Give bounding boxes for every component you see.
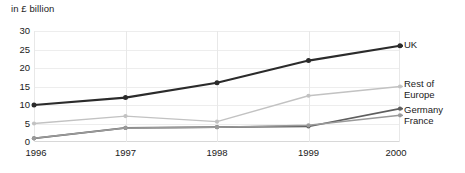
y-tick-label: 5 — [2, 119, 30, 129]
legend: UK Rest of Europe Germany France — [404, 31, 465, 142]
data-point — [215, 80, 220, 85]
data-point — [32, 121, 36, 125]
y-tick-label: 20 — [2, 63, 30, 73]
x-axis-tick-labels: 1996 1997 1998 1999 2000 — [34, 147, 400, 161]
y-axis-tick-labels: 30 25 20 15 10 5 0 — [0, 31, 30, 142]
data-point — [32, 103, 37, 108]
x-tick-label: 1999 — [298, 147, 319, 158]
legend-label-rest-of-europe-line1: Rest of — [404, 79, 434, 90]
y-tick-label: 10 — [2, 100, 30, 110]
legend-label-germany: Germany — [404, 105, 443, 116]
series-line — [34, 46, 400, 105]
y-tick-label: 25 — [2, 45, 30, 55]
x-tick-label: 1997 — [115, 147, 136, 158]
data-point — [215, 125, 219, 129]
y-tick-label: 0 — [2, 137, 30, 147]
plot-area — [34, 31, 400, 142]
series-line — [34, 87, 400, 124]
legend-label-france: France — [404, 116, 434, 127]
line-chart: in £ billion 30 25 20 15 10 5 0 1996 199… — [0, 0, 465, 173]
data-point — [123, 114, 127, 118]
data-point — [123, 126, 127, 130]
data-point — [306, 123, 310, 127]
legend-label-rest-of-europe-line2: Europe — [404, 90, 435, 101]
x-tick-label: 1996 — [25, 147, 46, 158]
data-point — [32, 136, 36, 140]
data-point — [306, 94, 310, 98]
x-tick-label: 2000 — [385, 147, 406, 158]
chart-axis-title: in £ billion — [11, 3, 54, 14]
x-tick-label: 1998 — [206, 147, 227, 158]
y-tick-label: 15 — [2, 82, 30, 92]
data-point — [306, 58, 311, 63]
data-point — [215, 120, 219, 124]
data-point — [123, 95, 128, 100]
legend-label-uk: UK — [404, 40, 417, 51]
series-france — [32, 113, 402, 140]
y-tick-label: 30 — [2, 26, 30, 36]
series-overlay — [34, 31, 400, 142]
series-uk — [32, 43, 403, 107]
